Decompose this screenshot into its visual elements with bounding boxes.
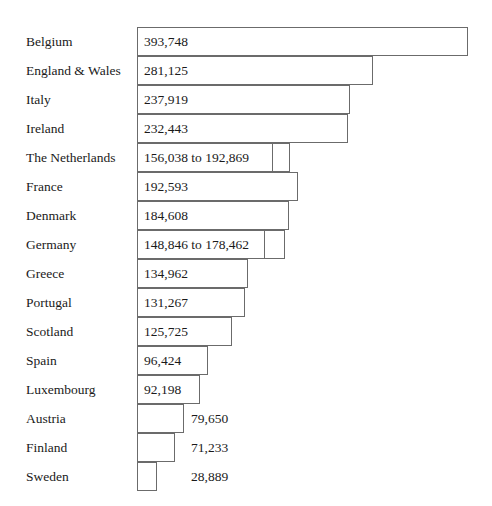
bar-range-extension [264,230,285,259]
bar-value-label: 232,443 [144,114,188,143]
category-label: Greece [26,259,64,288]
bar-value-label: 125,725 [144,317,188,346]
chart-row: Denmark184,608 [0,201,492,230]
bar-value-label: 134,962 [144,259,188,288]
category-label: Ireland [26,114,64,143]
category-label: Scotland [26,317,73,346]
bar-chart: Belgium393,748England & Wales281,125Ital… [0,0,492,506]
bar-value-label: 156,038 to 192,869 [144,143,249,172]
category-label: Spain [26,346,57,375]
chart-row: Sweden28,889 [0,462,492,491]
category-label: Sweden [26,462,69,491]
bar [137,433,175,462]
category-label: Austria [26,404,66,433]
category-label: Italy [26,85,51,114]
chart-row: Italy237,919 [0,85,492,114]
bar-value-label: 192,593 [144,172,188,201]
category-label: France [26,172,63,201]
category-label: England & Wales [26,56,121,85]
chart-row: The Netherlands156,038 to 192,869 [0,143,492,172]
chart-row: Luxembourg92,198 [0,375,492,404]
bar [137,462,157,491]
bar-value-label: 131,267 [144,288,188,317]
chart-row: England & Wales281,125 [0,56,492,85]
category-label: Denmark [26,201,76,230]
chart-row: Spain96,424 [0,346,492,375]
category-label: Portugal [26,288,72,317]
bar-value-label: 148,846 to 178,462 [144,230,249,259]
chart-row: France192,593 [0,172,492,201]
category-label: Finland [26,433,67,462]
chart-row: Germany148,846 to 178,462 [0,230,492,259]
bar-value-label: 281,125 [144,56,188,85]
category-label: Luxembourg [26,375,96,404]
category-label: Germany [26,230,76,259]
chart-row: Scotland125,725 [0,317,492,346]
bar [137,404,184,433]
bar-range-extension [272,143,290,172]
bar-value-label: 28,889 [191,462,228,491]
bar-value-label: 92,198 [144,375,181,404]
bar-value-label: 393,748 [144,27,188,56]
chart-row: Greece134,962 [0,259,492,288]
bar-value-label: 237,919 [144,85,188,114]
category-label: The Netherlands [26,143,116,172]
bar-value-label: 184,608 [144,201,188,230]
chart-row: Portugal131,267 [0,288,492,317]
bar-value-label: 79,650 [191,404,228,433]
bar-value-label: 96,424 [144,346,181,375]
category-label: Belgium [26,27,73,56]
chart-row: Austria79,650 [0,404,492,433]
chart-row: Finland71,233 [0,433,492,462]
chart-row: Ireland232,443 [0,114,492,143]
bar-value-label: 71,233 [191,433,228,462]
chart-row: Belgium393,748 [0,27,492,56]
